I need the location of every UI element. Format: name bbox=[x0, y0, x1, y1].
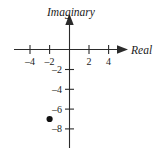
y-tick-label-neg2: –2 bbox=[51, 64, 62, 75]
y-tick-label-neg6: –6 bbox=[51, 104, 62, 115]
imaginary-axis-label: Imaginary bbox=[46, 6, 96, 19]
x-tick-label-2: 2 bbox=[87, 56, 92, 67]
chart-canvas: Imaginary Real –4 –2 2 4 –2 –4 –6 –8 bbox=[0, 0, 157, 149]
x-tick-label-neg4: –4 bbox=[24, 56, 35, 67]
real-axis-arrow-icon bbox=[117, 45, 128, 53]
y-tick-label-neg4: –4 bbox=[51, 84, 62, 95]
y-tick-label-neg8: –8 bbox=[51, 123, 62, 134]
complex-plane-chart: Imaginary Real –4 –2 2 4 –2 –4 –6 –8 bbox=[0, 0, 157, 149]
x-tick-label-4: 4 bbox=[106, 56, 111, 67]
data-point bbox=[47, 116, 53, 122]
real-axis-label: Real bbox=[130, 44, 152, 56]
